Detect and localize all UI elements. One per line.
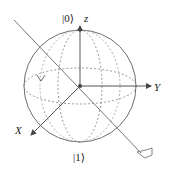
bloch-sphere-diagram: |0⟩ z Y X |1⟩ xyxy=(0,0,172,171)
bottom-state-label: |1⟩ xyxy=(73,151,85,163)
x-axis-label: X xyxy=(14,124,23,136)
x-axis xyxy=(31,86,80,135)
north-pole-dot xyxy=(78,28,82,32)
y-axis-label: Y xyxy=(154,81,162,93)
z-axis-label: z xyxy=(83,12,89,24)
top-state-label: |0⟩ xyxy=(62,12,74,24)
hollow-arrow-icon xyxy=(137,148,152,158)
